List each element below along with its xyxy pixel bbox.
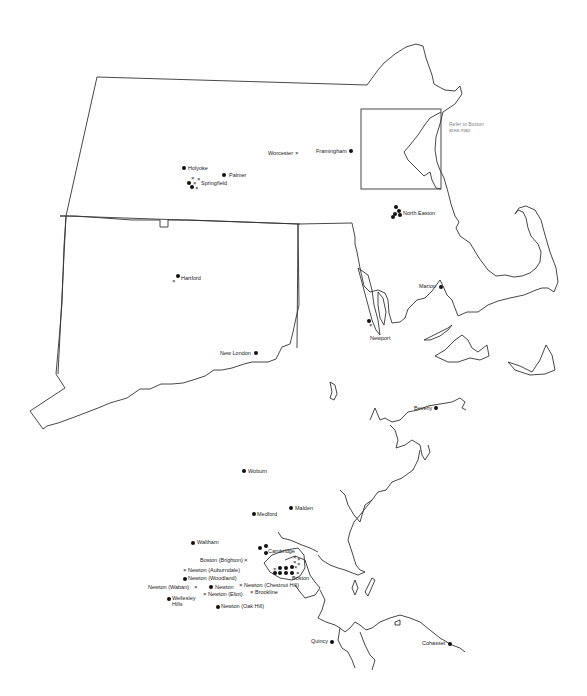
cross-marker-newton-auburndale: ×: [183, 567, 187, 573]
place-label-newton: Newton: [215, 585, 234, 591]
place-label-boston: Boston: [292, 576, 309, 582]
place-marker-new-london: [254, 351, 258, 355]
place-label-newton-chestnut-hill: Newton (Chestnut Hill): [244, 583, 299, 589]
cross-marker: ×: [195, 185, 199, 191]
place-marker-medford: [252, 512, 256, 516]
state-border: [66, 216, 300, 224]
place-marker-boston: [290, 565, 294, 569]
place-label-worcester: Worcester: [268, 151, 293, 157]
place-label-newton-woodland: Newton (Woodland): [188, 576, 237, 582]
state-border: [58, 216, 66, 374]
place-label-new-london: New London: [220, 351, 251, 357]
harbor-island: [395, 620, 400, 625]
state-border: [66, 77, 97, 216]
place-marker-boston: [284, 566, 288, 570]
state-border: [297, 224, 298, 348]
harbor-island: [365, 578, 375, 596]
boston-map-reference-note: Refer to Boston area map: [449, 121, 489, 134]
place-label-framingham: Framingham: [316, 149, 347, 155]
place-marker-wellesley-hills: [167, 597, 171, 601]
massachusetts-outline: [30, 44, 558, 429]
place-label-newton-eliot: Newton (Eliot): [208, 592, 243, 598]
narragansett-bay: [378, 292, 386, 325]
cross-marker-newport: ×: [369, 322, 373, 328]
place-marker-boston: [278, 571, 282, 575]
place-label-waltham: Waltham: [197, 540, 219, 546]
place-label-malden: Malden: [295, 506, 313, 512]
place-label-brookline: Brookline: [255, 590, 278, 596]
place-marker-springfield: [190, 185, 194, 189]
map-canvas: [0, 0, 587, 696]
place-label-medford: Medford: [257, 512, 277, 518]
place-marker-beverly: [434, 406, 438, 410]
place-label-marion: Marion: [419, 284, 436, 290]
place-marker-holyoke: [182, 166, 186, 170]
place-label-palmer: Palmer: [229, 173, 246, 179]
cross-marker-boston-brighton: ×: [244, 557, 248, 563]
harbor-island: [352, 580, 358, 595]
boston-inset-frame: [361, 109, 441, 189]
marthas-vineyard: [435, 335, 489, 362]
place-marker-newton-oak-hill: [216, 605, 220, 609]
place-marker-marion: [439, 285, 443, 289]
place-marker-palmer: [222, 173, 226, 177]
cross-marker-newton-eliot: ×: [203, 591, 207, 597]
elizabeth-islands: [424, 325, 452, 340]
place-marker-north-easton: [391, 215, 395, 219]
place-marker-cohasset: [448, 642, 452, 646]
cross-marker-brookline: ×: [250, 589, 254, 595]
place-marker-hartford: [176, 274, 180, 278]
place-marker-waltham: [191, 541, 195, 545]
place-marker-malden: [289, 506, 293, 510]
place-marker-newton-woodland: [183, 577, 187, 581]
place-marker-boston: [284, 571, 288, 575]
place-label-holyoke: Holyoke: [188, 166, 208, 172]
place-label-quincy: Quincy: [311, 639, 328, 645]
place-label-newton-waban: Newton (Waban): [148, 585, 189, 591]
place-label-boston-brighton: Boston (Brighton): [200, 558, 243, 564]
place-marker-newton: [209, 585, 213, 589]
cross-marker: ×: [197, 176, 201, 182]
place-label-woburn: Woburn: [248, 469, 267, 475]
place-marker-boston: [273, 571, 277, 575]
place-label-springfield: Springfield: [201, 181, 227, 187]
place-marker-framingham: [349, 149, 353, 153]
place-label-cambridge: Cambridge: [268, 549, 295, 555]
place-label-newton-oak-hill: Newton (Oak Hill): [221, 604, 264, 610]
place-label-cohasset: Cohasset: [422, 641, 445, 647]
place-marker-cambridge: [258, 546, 262, 550]
place-label-wellesley-hills: Wellesley Hills: [172, 596, 202, 607]
place-label-north-easton: North Easton: [403, 211, 435, 217]
cross-marker-worcester: ×: [295, 150, 299, 156]
cross-marker-hartford: ×: [172, 278, 176, 284]
place-label-hartford: Hartford: [181, 276, 201, 282]
place-marker-woburn: [242, 469, 246, 473]
block-island: [330, 382, 337, 400]
place-marker-boston: [278, 566, 282, 570]
place-marker-north-easton: [398, 213, 402, 217]
place-label-beverly: Beverly: [414, 406, 432, 412]
cross-marker-newton-waban: ×: [194, 584, 198, 590]
boston-coastline: [278, 398, 466, 670]
place-label-newton-auburndale: Newton (Auburndale): [188, 568, 240, 574]
place-marker-quincy: [330, 640, 334, 644]
cross-marker-newton-chestnut-hill: ×: [239, 582, 243, 588]
place-label-newport: Newport: [370, 336, 390, 342]
nantucket: [508, 345, 555, 375]
